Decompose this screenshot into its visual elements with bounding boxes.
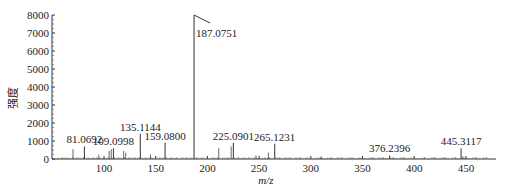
y-tick-label: 0 <box>44 153 50 165</box>
peak-label: 265.1231 <box>254 131 295 143</box>
y-axis-label: 强度 <box>6 87 19 109</box>
y-tick-label: 2000 <box>27 117 50 129</box>
peak-label: 445.3117 <box>441 135 482 147</box>
peak-label: 159.0800 <box>144 130 186 142</box>
y-tick-label: 5000 <box>27 63 50 75</box>
peak-label: 225.0901 <box>213 130 254 142</box>
axes: 0100020003000400050006000700080001001502… <box>27 9 496 174</box>
x-tick-label: 100 <box>96 162 113 174</box>
y-tick-label: 4000 <box>27 81 50 93</box>
peak-labels: 81.0692109.0998135.1144159.0800187.07512… <box>67 27 482 154</box>
mass-spectrum-chart: 0100020003000400050006000700080001001502… <box>0 0 509 189</box>
peak-label: 109.0998 <box>93 135 135 147</box>
y-tick-label: 1000 <box>27 135 50 147</box>
y-tick-label: 3000 <box>27 99 50 111</box>
peak-label: 187.0751 <box>196 27 237 39</box>
x-tick-label: 150 <box>147 162 164 174</box>
x-tick-label: 350 <box>354 162 371 174</box>
y-tick-label: 7000 <box>27 27 50 39</box>
x-tick-label: 250 <box>251 162 268 174</box>
x-axis-label: m/z <box>258 174 274 186</box>
y-tick-label: 8000 <box>27 9 50 21</box>
x-tick-label: 400 <box>406 162 423 174</box>
peak-label: 376.2396 <box>369 142 411 154</box>
x-tick-label: 300 <box>303 162 320 174</box>
y-tick-label: 6000 <box>27 45 50 57</box>
x-tick-label: 450 <box>458 162 475 174</box>
x-tick-label: 200 <box>199 162 216 174</box>
